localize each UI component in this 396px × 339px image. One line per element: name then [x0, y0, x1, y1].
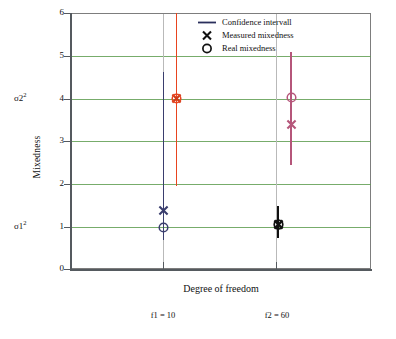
gridline-1 [71, 227, 371, 228]
y-tick-6 [64, 13, 72, 14]
real-mixedness-marker-f1-low [156, 220, 171, 235]
confidence-interval-f2-high [290, 52, 292, 165]
gridline-3 [71, 141, 371, 142]
y-tick-3 [64, 141, 72, 142]
legend: Confidence intervall Measured mixedness … [196, 16, 361, 55]
y-tick-label-1: 1 [40, 222, 64, 231]
category-label-f1: f1 = 10 [118, 310, 208, 320]
legend-label-confidence-interval: Confidence intervall [222, 18, 292, 27]
y-tick-1 [64, 227, 72, 228]
legend-label-measured-mixedness: Measured mixedness [222, 31, 294, 40]
sigma1-exponent: 2 [23, 219, 26, 226]
real-mixedness-marker-f2-low [271, 217, 286, 232]
x-axis-title: Degree of freedom [70, 283, 372, 294]
gridline-2 [71, 184, 371, 185]
measured-mixedness-marker-f1-low [156, 203, 171, 218]
legend-item-real-mixedness: Real mixedness [196, 42, 361, 55]
y-tick-label-5: 5 [40, 51, 64, 60]
cross-icon [196, 29, 222, 42]
y-tick-label-2: 2 [40, 179, 64, 188]
measured-mixedness-marker-f2-high [284, 117, 299, 132]
chart-root: 6 5 4 3 2 1 0 σ22 σ12 Mixedness [0, 0, 396, 339]
y-tick-label-6: 6 [40, 8, 64, 17]
y-tick-label-4: 4 [40, 94, 64, 103]
category-label-f2: f2 = 60 [232, 310, 322, 320]
sigma2-squared-label: σ22 [14, 93, 27, 103]
sigma2-base: σ2 [14, 93, 23, 103]
gridline-4 [71, 99, 371, 100]
sigma2-exponent: 2 [23, 91, 26, 98]
y-tick-0 [64, 269, 72, 270]
legend-item-confidence-interval: Confidence intervall [196, 16, 361, 29]
y-tick-label-0: 0 [40, 264, 64, 273]
y-tick-5 [64, 56, 72, 57]
gridline-5 [71, 56, 371, 57]
line-icon [196, 16, 222, 29]
circle-icon [196, 42, 222, 55]
y-tick-2 [64, 184, 72, 185]
y-tick-4 [64, 99, 72, 100]
x-tick-f2 [276, 262, 277, 271]
real-mixedness-marker-f2-high [284, 90, 299, 105]
legend-item-measured-mixedness: Measured mixedness [196, 29, 361, 42]
real-mixedness-marker-f1-high [169, 91, 184, 106]
y-tick-label-3: 3 [40, 136, 64, 145]
x-tick-f1 [163, 262, 164, 271]
y-axis-title: Mixedness [32, 112, 42, 202]
x-axis-line [70, 269, 372, 271]
legend-label-real-mixedness: Real mixedness [222, 44, 276, 53]
sigma1-base: σ1 [14, 221, 23, 231]
sigma1-squared-label: σ12 [14, 221, 27, 231]
